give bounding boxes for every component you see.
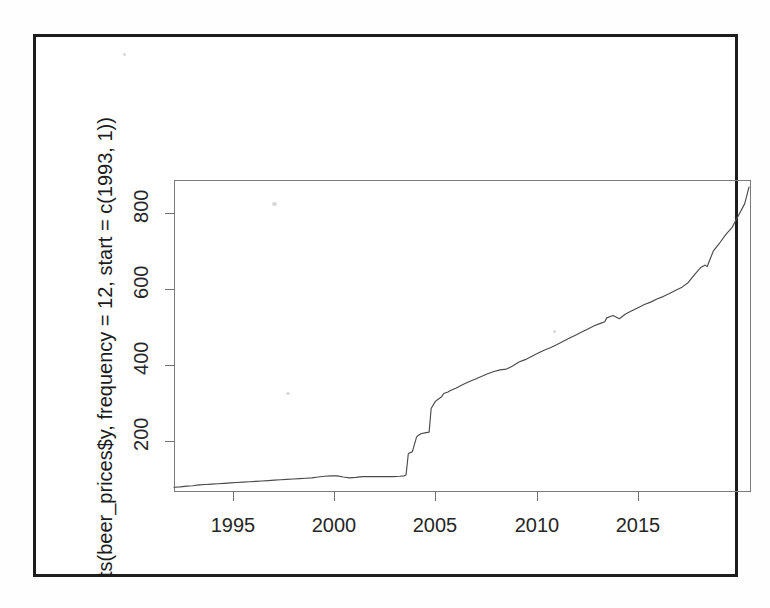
y-axis-title-container: ts(beer_prices$y, frequency = 12, start … <box>78 79 118 579</box>
y-tick-400 <box>165 365 174 366</box>
y-tick-label-600: 600 <box>118 277 164 300</box>
x-tick-label-1995: 1995 <box>183 514 283 537</box>
x-tick-2005 <box>435 492 436 501</box>
x-tick-2000 <box>334 492 335 501</box>
x-tick-1995 <box>233 492 234 501</box>
y-tick-label-200: 200 <box>118 429 164 452</box>
y-tick-800 <box>165 213 174 214</box>
x-tick-2015 <box>638 492 639 501</box>
y-axis-title: ts(beer_prices$y, frequency = 12, start … <box>94 117 117 577</box>
x-tick-label-2005: 2005 <box>385 514 485 537</box>
x-tick-label-2010: 2010 <box>487 514 587 537</box>
y-tick-label-800: 800 <box>118 201 164 224</box>
time-series-line <box>174 180 751 492</box>
y-tick-600 <box>165 289 174 290</box>
x-tick-label-2015: 2015 <box>588 514 688 537</box>
figure-frame: ts(beer_prices$y, frequency = 12, start … <box>33 34 738 577</box>
plot-area: 200 400 600 800 1995 2000 2005 2010 2015 <box>174 180 751 492</box>
y-tick-label-400: 400 <box>118 353 164 376</box>
scanned-page-background: ts(beer_prices$y, frequency = 12, start … <box>0 0 770 608</box>
y-tick-200 <box>165 441 174 442</box>
x-tick-label-2000: 2000 <box>284 514 384 537</box>
x-tick-2010 <box>537 492 538 501</box>
